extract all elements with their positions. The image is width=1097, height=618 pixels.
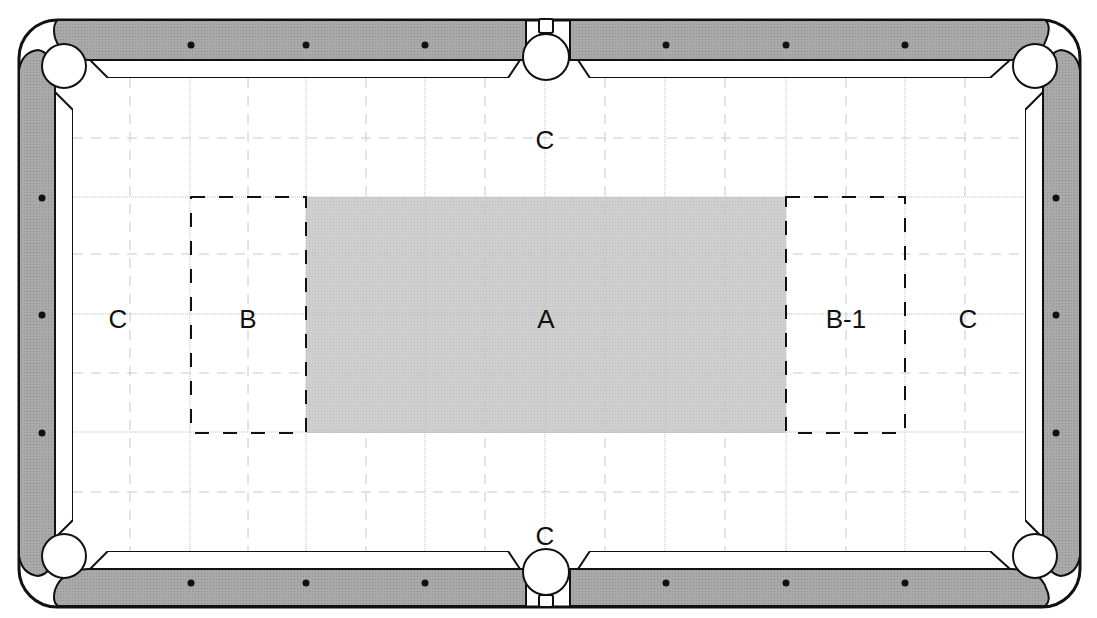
diamond-icon	[303, 42, 310, 49]
diamond-icon	[783, 580, 790, 587]
diamond-icon	[902, 580, 909, 587]
diamond-icon	[188, 580, 195, 587]
top-right-rail	[570, 20, 1049, 60]
cushion-top-right	[578, 60, 1010, 78]
diamond-icon	[663, 42, 670, 49]
pocket-top-middle	[523, 34, 569, 80]
diamond-icon	[188, 42, 195, 49]
diamond-icon	[1053, 195, 1060, 202]
zone-label-c-right: C	[959, 304, 978, 334]
cushion-bottom-right	[578, 551, 1010, 569]
diamond-icon	[1053, 312, 1060, 319]
cushion-bottom-left	[90, 551, 520, 569]
diamond-icon	[422, 580, 429, 587]
diamond-icon	[422, 42, 429, 49]
pocket-bottom-middle	[523, 549, 569, 595]
right-rail	[1043, 50, 1080, 576]
pocket-notch-bottom	[539, 595, 553, 607]
zone-label-c-left: C	[109, 304, 128, 334]
top-left-rail	[54, 20, 526, 60]
zone-label-c-bottom: C	[536, 521, 555, 551]
diamond-icon	[902, 42, 909, 49]
diamond-icon	[663, 580, 670, 587]
diamond-icon	[39, 195, 46, 202]
zone-label-c-top: C	[536, 125, 555, 155]
left-rail	[19, 50, 55, 576]
diamond-icon	[1053, 430, 1060, 437]
cushion-right	[1025, 92, 1043, 538]
diamond-icon	[39, 312, 46, 319]
bottom-left-rail	[54, 569, 526, 606]
zone-label-b: B	[239, 304, 256, 334]
pocket-bottom-right	[1013, 534, 1057, 578]
pocket-top-left	[42, 44, 86, 88]
pocket-bottom-left	[42, 534, 86, 578]
diamond-icon	[783, 42, 790, 49]
cushion-top-left	[90, 60, 520, 78]
cushion-left	[55, 92, 73, 538]
diamond-icon	[303, 580, 310, 587]
zone-label-a: A	[537, 304, 555, 334]
bottom-right-rail	[570, 569, 1049, 606]
diamond-icon	[39, 430, 46, 437]
zone-label-b1: B-1	[826, 304, 866, 334]
pocket-top-right	[1013, 44, 1057, 88]
pocket-notch-top	[539, 19, 553, 33]
pool-table-diagram: C C C B A B-1 C	[0, 0, 1097, 618]
